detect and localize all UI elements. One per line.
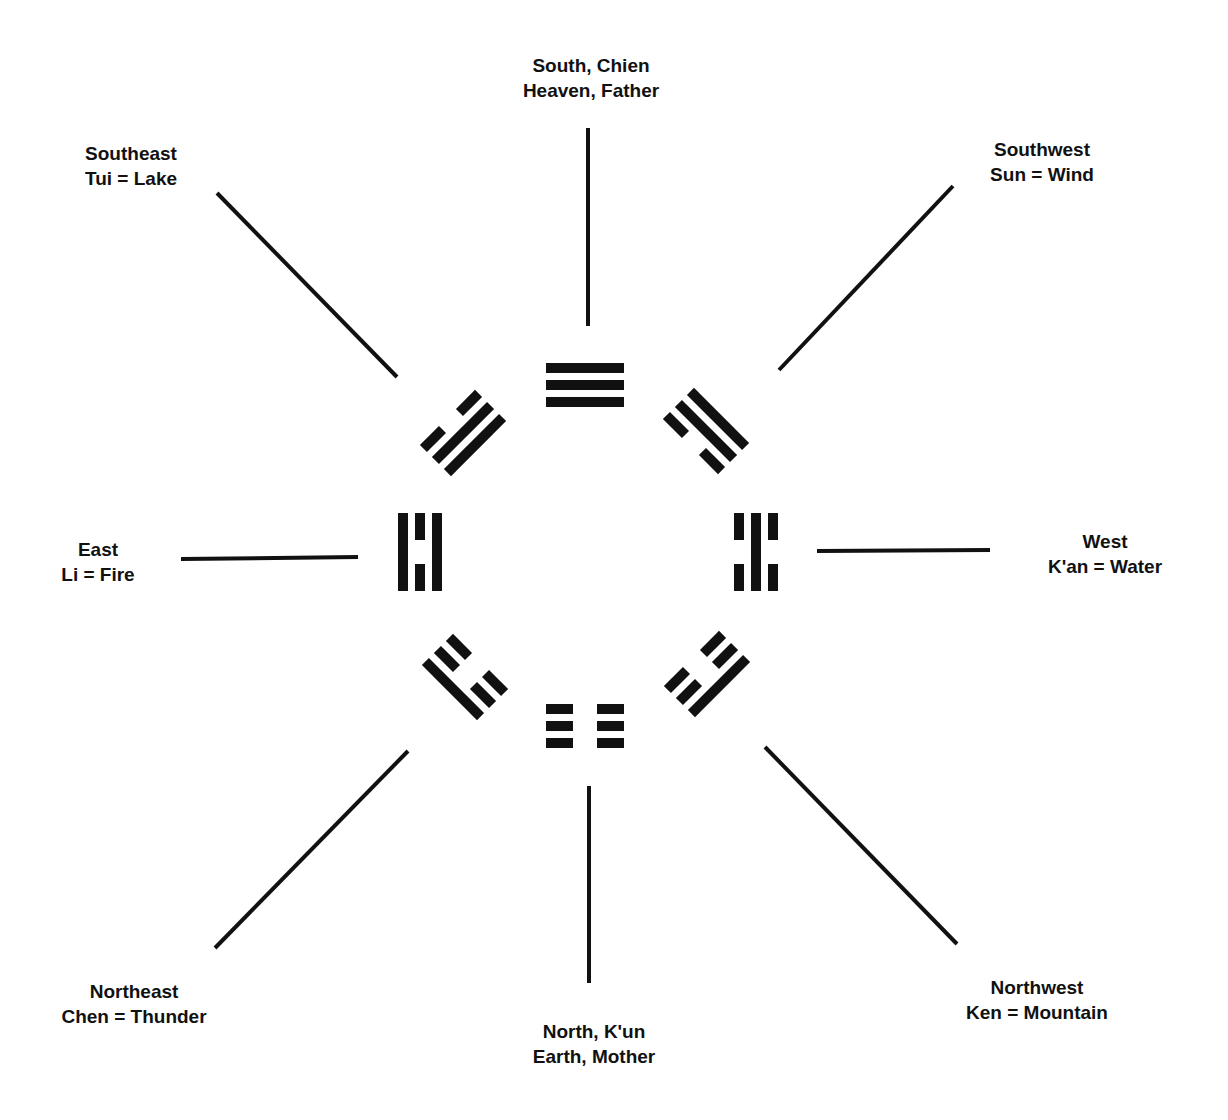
yin-line-segment [768,513,778,540]
trigram-south-icon [546,363,624,407]
yin-line-segment [597,738,624,748]
label-northeast-meaning: Chen = Thunder [61,1004,206,1029]
label-north: North, K'un Earth, Mother [533,1019,655,1069]
label-southeast-meaning: Tui = Lake [85,166,177,191]
label-southwest: Southwest Sun = Wind [990,137,1094,187]
label-north-meaning: Earth, Mother [533,1044,655,1069]
connector-west [817,550,990,551]
label-northwest: Northwest Ken = Mountain [966,975,1108,1025]
label-east-direction: East [61,537,134,562]
label-northeast-direction: Northeast [61,979,206,1004]
yang-line [398,513,408,591]
label-south-direction: South, Chien [523,53,659,78]
label-southwest-direction: Southwest [990,137,1094,162]
label-southeast: Southeast Tui = Lake [85,141,177,191]
yin-line-segment [734,564,744,591]
label-southwest-meaning: Sun = Wind [990,162,1094,187]
yin-line-segment [768,564,778,591]
label-northwest-direction: Northwest [966,975,1108,1000]
yin-line-segment [546,704,573,714]
label-northeast: Northeast Chen = Thunder [61,979,206,1029]
label-south-meaning: Heaven, Father [523,78,659,103]
yang-line [432,513,442,591]
yin-line-segment [546,721,573,731]
label-west-meaning: K'an = Water [1048,554,1162,579]
yin-line-segment [415,564,425,591]
yang-line [546,397,624,407]
yang-line [546,380,624,390]
yin-line-segment [734,513,744,540]
yang-line [751,513,761,591]
yin-line-segment [597,721,624,731]
label-southeast-direction: Southeast [85,141,177,166]
label-east: East Li = Fire [61,537,134,587]
yin-line-segment [415,513,425,540]
label-east-meaning: Li = Fire [61,562,134,587]
yin-line-segment [546,738,573,748]
connector-east [181,557,358,559]
label-north-direction: North, K'un [533,1019,655,1044]
yin-line-segment [597,704,624,714]
yang-line [546,363,624,373]
label-west: West K'an = Water [1048,529,1162,579]
label-northwest-meaning: Ken = Mountain [966,1000,1108,1025]
label-west-direction: West [1048,529,1162,554]
label-south: South, Chien Heaven, Father [523,53,659,103]
